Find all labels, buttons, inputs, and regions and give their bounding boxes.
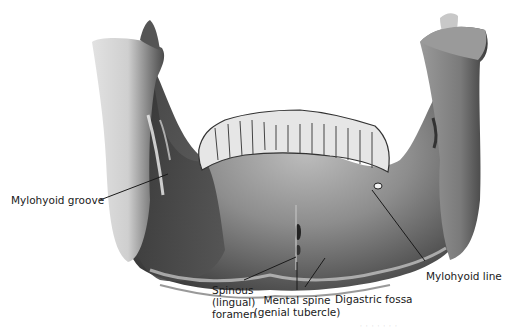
- faint-caption: · · · · · · ·: [360, 322, 398, 329]
- label-line: (genial tubercle): [233, 306, 361, 318]
- label-mylohyoid-groove: Mylohyoid groove: [11, 194, 104, 206]
- mandible-body: [122, 60, 456, 298]
- label-digastric-fossa: Digastric fossa: [335, 293, 413, 305]
- mylohyoid-foramen-mark: [374, 183, 382, 189]
- label-mylohyoid-line: Mylohyoid line: [426, 270, 502, 282]
